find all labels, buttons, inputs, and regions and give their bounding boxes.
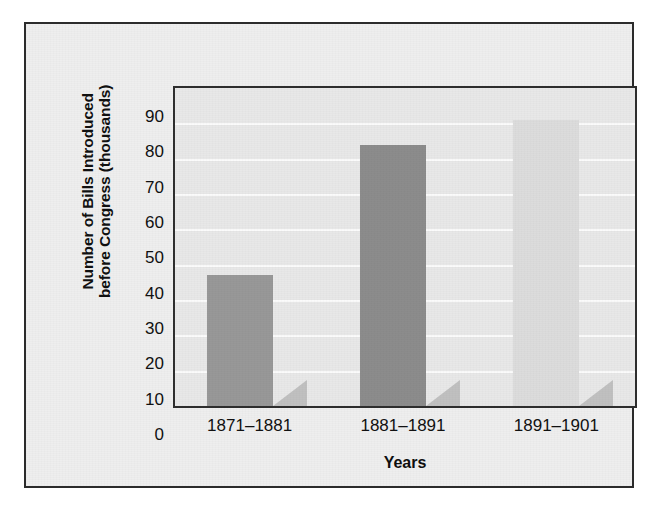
x-axis-tick-labels: 1871–18811881–18911891–1901 <box>173 416 637 446</box>
bars-layer <box>175 88 635 406</box>
bar-body <box>207 275 273 406</box>
y-axis-tick-label: 60 <box>112 214 164 231</box>
y-axis-title-line-2: before Congress (thousands) <box>96 21 113 361</box>
y-axis-tick-label: 30 <box>112 320 164 337</box>
y-axis-tick-label: 70 <box>112 179 164 196</box>
x-axis-title: Years <box>173 454 637 472</box>
figure-frame: Number of Bills Introduced before Congre… <box>24 22 634 488</box>
y-axis-tick-label: 0 <box>112 426 164 443</box>
y-axis-tick-label: 50 <box>112 249 164 266</box>
y-axis-tick-labels: 0102030405060708090 <box>112 77 164 417</box>
bar-ground-shadow <box>273 380 307 406</box>
plot-area <box>173 86 637 408</box>
chart-screenshot: Number of Bills Introduced before Congre… <box>0 0 656 509</box>
bar-body <box>513 120 579 406</box>
bar-ground-shadow <box>426 380 460 406</box>
x-axis-tick-label: 1881–1891 <box>326 416 479 436</box>
bar <box>207 275 273 406</box>
bar <box>360 145 426 406</box>
y-axis-tick-label: 90 <box>112 108 164 125</box>
x-axis-tick-label: 1871–1881 <box>173 416 326 436</box>
x-axis-tick-label: 1891–1901 <box>480 416 633 436</box>
y-axis-title-line-1: Number of Bills Introduced <box>79 21 96 361</box>
y-axis-tick-label: 20 <box>112 355 164 372</box>
bar-body <box>360 145 426 406</box>
y-axis-title: Number of Bills Introduced before Congre… <box>79 21 114 361</box>
y-axis-tick-label: 10 <box>112 391 164 408</box>
bar-ground-shadow <box>579 380 613 406</box>
y-axis-tick-label: 80 <box>112 143 164 160</box>
y-axis-tick-label: 40 <box>112 285 164 302</box>
bar <box>513 120 579 406</box>
